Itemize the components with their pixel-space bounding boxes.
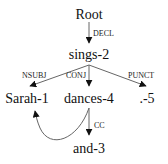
edge-sings-dances: CONJ bbox=[66, 65, 89, 86]
edge-label-cc: CC bbox=[94, 121, 105, 130]
dependency-tree-diagram: DECL NSUBJ CONJ PUNCT CC Root sings-2 Sa… bbox=[0, 0, 168, 164]
edge-sings-period: PUNCT bbox=[89, 65, 154, 86]
node-root: Root bbox=[75, 7, 102, 22]
node-and: and-3 bbox=[73, 141, 105, 156]
node-period: .-5 bbox=[139, 91, 154, 106]
node-dances: dances-4 bbox=[64, 91, 114, 106]
edge-label-punct: PUNCT bbox=[128, 71, 154, 80]
edge-label-decl: DECL bbox=[93, 29, 114, 38]
edge-dances-and: CC bbox=[89, 108, 105, 135]
edge-dances-sarah bbox=[35, 108, 89, 140]
node-sarah: Sarah-1 bbox=[5, 91, 49, 106]
node-sings: sings-2 bbox=[69, 47, 109, 62]
curved-arrow bbox=[35, 108, 89, 140]
edge-label-nsubj: NSUBJ bbox=[22, 71, 46, 80]
edge-label-conj: CONJ bbox=[66, 71, 86, 80]
edge-root-sings: DECL bbox=[89, 22, 114, 43]
